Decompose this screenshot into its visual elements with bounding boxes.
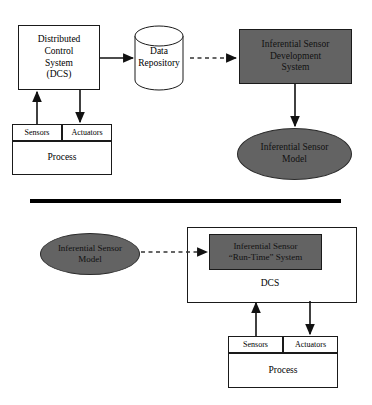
dcs-container-bottom-label: DCS — [240, 276, 300, 292]
process-box-bottom: Process — [228, 353, 338, 388]
inferential-sensor-development-system-box: Inferential Sensor Development System — [239, 29, 352, 84]
data-repository-line-2: Repository — [138, 58, 180, 70]
runtime-system-line-2: “Run-Time” System — [229, 252, 302, 263]
process-box-top: Process — [12, 141, 112, 175]
dcs-box-line-1: Distributed — [38, 34, 81, 46]
sensor-model-bottom-line-1: Inferential Sensor — [58, 243, 122, 254]
runtime-system-line-1: Inferential Sensor — [229, 241, 302, 252]
actuators-cell-bottom: Actuators — [283, 336, 338, 353]
section-divider-bar — [30, 199, 341, 203]
process-box-top-label: Process — [47, 152, 76, 164]
sensors-cell-top-label: Sensors — [25, 128, 50, 138]
process-box-bottom-label: Process — [268, 365, 297, 377]
data-repository-line-1: Data — [138, 46, 180, 58]
actuators-cell-top-label: Actuators — [71, 128, 102, 138]
dcs-box-line-2: Control — [38, 46, 81, 58]
dcs-container-label-text: DCS — [261, 278, 279, 290]
sensor-model-bottom-line-2: Model — [58, 254, 122, 265]
development-system-line-1: Inferential Sensor — [262, 39, 330, 51]
inferential-sensor-model-ellipse-top: Inferential Sensor Model — [237, 128, 352, 180]
dcs-box: Distributed Control System (DCS) — [18, 25, 100, 90]
actuators-cell-bottom-label: Actuators — [295, 340, 326, 350]
actuators-cell-top: Actuators — [62, 124, 112, 141]
dcs-box-line-4: (DCS) — [38, 69, 81, 81]
diagram-canvas: Distributed Control System (DCS) Sensors… — [0, 0, 372, 405]
inferential-sensor-runtime-system-box: Inferential Sensor “Run-Time” System — [209, 234, 322, 270]
data-repository-label: Data Repository — [127, 43, 191, 73]
sensor-model-top-line-2: Model — [261, 154, 329, 166]
dcs-box-line-3: System — [38, 58, 81, 70]
sensors-cell-bottom-label: Sensors — [243, 340, 268, 350]
sensors-cell-bottom: Sensors — [228, 336, 283, 353]
development-system-line-3: System — [262, 62, 330, 74]
development-system-line-2: Development — [262, 51, 330, 63]
sensors-cell-top: Sensors — [12, 124, 62, 141]
inferential-sensor-model-ellipse-bottom: Inferential Sensor Model — [40, 233, 140, 275]
sensor-model-top-line-1: Inferential Sensor — [261, 142, 329, 154]
